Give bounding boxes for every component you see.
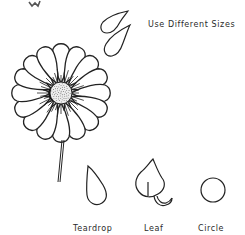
label-circle: Circle xyxy=(198,224,224,233)
label-teardrop: Teardrop xyxy=(73,224,112,233)
teardrop-medium-icon xyxy=(104,25,130,56)
flower-stem xyxy=(58,140,64,182)
teardrop-icon xyxy=(87,166,107,205)
caption-use-different-sizes: Use Different Sizes xyxy=(148,20,235,29)
label-leaf: Leaf xyxy=(144,224,163,233)
leaf-icon xyxy=(136,159,172,206)
circle-icon xyxy=(201,178,225,202)
daisy-flower-icon xyxy=(12,44,111,143)
smudge-mark xyxy=(29,1,40,6)
diagram-illustration xyxy=(0,0,245,235)
teardrop-small-icon xyxy=(101,11,128,33)
